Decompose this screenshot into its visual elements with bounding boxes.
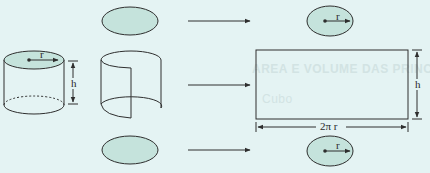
cylinder-net-diagram: AREA E VOLUME DAS PRINCIPAIS FIGURAS Cub… bbox=[0, 0, 430, 173]
top-base-ellipse bbox=[102, 7, 158, 35]
rectangle-width-label: 2π r bbox=[320, 121, 337, 132]
open-cylinder bbox=[101, 51, 162, 118]
top-circle bbox=[307, 6, 353, 36]
bottom-base-ellipse bbox=[102, 136, 158, 164]
lateral-rectangle bbox=[256, 50, 408, 119]
cylinder bbox=[4, 51, 64, 114]
cylinder-height-label: h bbox=[70, 78, 78, 89]
top-circle-radius-label: r bbox=[336, 11, 340, 22]
rectangle-height-label: h bbox=[414, 79, 422, 90]
bottom-circle-radius-label: r bbox=[336, 140, 340, 151]
cylinder-radius-label: r bbox=[40, 49, 44, 60]
diagram-canvas bbox=[0, 0, 430, 173]
bottom-circle bbox=[307, 136, 353, 166]
